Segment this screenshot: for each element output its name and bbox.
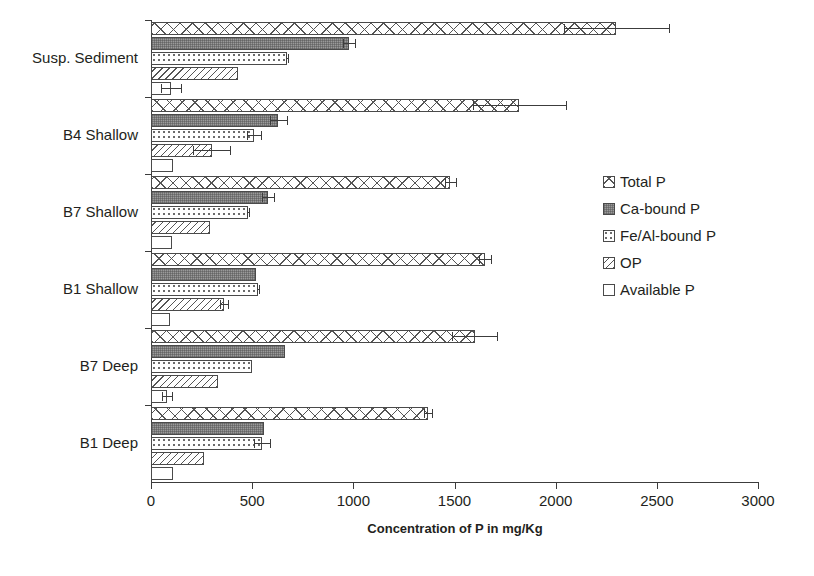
bar-ca-bound-p bbox=[151, 37, 349, 50]
legend-item-label: OP bbox=[620, 254, 642, 271]
x-axis-tick-label: 3000 bbox=[718, 492, 798, 509]
bar-fe-al-bound-p bbox=[151, 437, 262, 450]
bar-total-p bbox=[151, 253, 485, 266]
legend-item[interactable]: Fe/Al-bound P bbox=[603, 222, 716, 249]
bar-total-p bbox=[151, 330, 475, 343]
bar-available-p bbox=[151, 467, 173, 480]
bar-available-p bbox=[151, 236, 172, 249]
x-axis-title: Concentration of P in mg/Kg bbox=[151, 521, 759, 536]
bar-ca-bound-p bbox=[151, 114, 278, 127]
bar-chart: Susp. SedimentB4 ShallowB7 ShallowB1 Sha… bbox=[0, 0, 814, 576]
y-axis-category-label: B1 Deep bbox=[0, 434, 138, 451]
bar-available-p bbox=[151, 159, 173, 172]
legend-item[interactable]: Available P bbox=[603, 276, 716, 303]
legend-item-label: Available P bbox=[620, 281, 695, 298]
y-axis-category-label: B7 Shallow bbox=[0, 203, 138, 220]
legend-swatch-icon bbox=[603, 284, 615, 296]
bar-op bbox=[151, 298, 224, 311]
x-axis-tick bbox=[556, 482, 557, 489]
x-axis-tick-label: 2000 bbox=[516, 492, 596, 509]
bar-fe-al-bound-p bbox=[151, 52, 287, 65]
legend-item-label: Fe/Al-bound P bbox=[620, 227, 716, 244]
x-axis-tick bbox=[353, 482, 354, 489]
legend-item[interactable]: Ca-bound P bbox=[603, 195, 716, 222]
y-axis-category-label: Susp. Sediment bbox=[0, 49, 138, 66]
bar-fe-al-bound-p bbox=[151, 360, 252, 373]
y-axis-category-label: B4 Shallow bbox=[0, 126, 138, 143]
bar-op bbox=[151, 452, 204, 465]
bar-ca-bound-p bbox=[151, 191, 268, 204]
legend-swatch-icon bbox=[603, 257, 615, 269]
x-axis-tick-label: 500 bbox=[212, 492, 292, 509]
bar-ca-bound-p bbox=[151, 345, 285, 358]
legend-item-label: Total P bbox=[620, 173, 666, 190]
bar-fe-al-bound-p bbox=[151, 206, 248, 219]
bar-op bbox=[151, 67, 238, 80]
bar-op bbox=[151, 221, 210, 234]
legend-swatch-icon bbox=[603, 176, 615, 188]
bar-total-p bbox=[151, 22, 616, 35]
x-axis-tick bbox=[252, 482, 253, 489]
y-axis-category-label: B7 Deep bbox=[0, 357, 138, 374]
legend-item[interactable]: Total P bbox=[603, 168, 716, 195]
bar-total-p bbox=[151, 407, 428, 420]
legend-item[interactable]: OP bbox=[603, 249, 716, 276]
bar-total-p bbox=[151, 176, 450, 189]
x-axis-tick bbox=[151, 482, 152, 489]
bar-ca-bound-p bbox=[151, 422, 264, 435]
y-axis-category-label: B1 Shallow bbox=[0, 280, 138, 297]
x-axis-tick-label: 1000 bbox=[313, 492, 393, 509]
bar-total-p bbox=[151, 99, 519, 112]
legend-swatch-icon bbox=[603, 230, 615, 242]
x-axis-tick-label: 1500 bbox=[415, 492, 495, 509]
legend-swatch-icon bbox=[603, 203, 615, 215]
legend-item-label: Ca-bound P bbox=[620, 200, 700, 217]
bar-available-p bbox=[151, 313, 170, 326]
x-axis-tick-label: 2500 bbox=[617, 492, 697, 509]
legend: Total PCa-bound PFe/Al-bound POPAvailabl… bbox=[603, 168, 716, 303]
bar-fe-al-bound-p bbox=[151, 283, 258, 296]
x-axis-tick bbox=[657, 482, 658, 489]
bar-fe-al-bound-p bbox=[151, 129, 254, 142]
x-axis-tick bbox=[758, 482, 759, 489]
x-axis-tick bbox=[455, 482, 456, 489]
bar-ca-bound-p bbox=[151, 268, 256, 281]
x-axis-tick-label: 0 bbox=[111, 492, 191, 509]
bar-op bbox=[151, 375, 218, 388]
